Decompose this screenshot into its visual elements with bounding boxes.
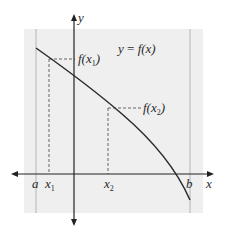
interval-left-label: a xyxy=(32,176,39,191)
y-axis-up-arrow-icon xyxy=(71,14,77,21)
y-axis-down-arrow-icon xyxy=(71,219,77,226)
x-axis-label: x xyxy=(205,176,212,191)
fx1-label: f(x1) xyxy=(78,51,100,68)
equation-label: y = f(x) xyxy=(116,41,156,56)
y-axis-label: y xyxy=(76,10,84,25)
fx2-label: f(x2) xyxy=(143,100,165,117)
x-axis-left-arrow-icon xyxy=(11,171,18,177)
function-graph-diagram: y x a b y = f(x) f(x1) f(x2) x1 x2 xyxy=(0,0,225,236)
interval-right-label: b xyxy=(186,176,193,191)
